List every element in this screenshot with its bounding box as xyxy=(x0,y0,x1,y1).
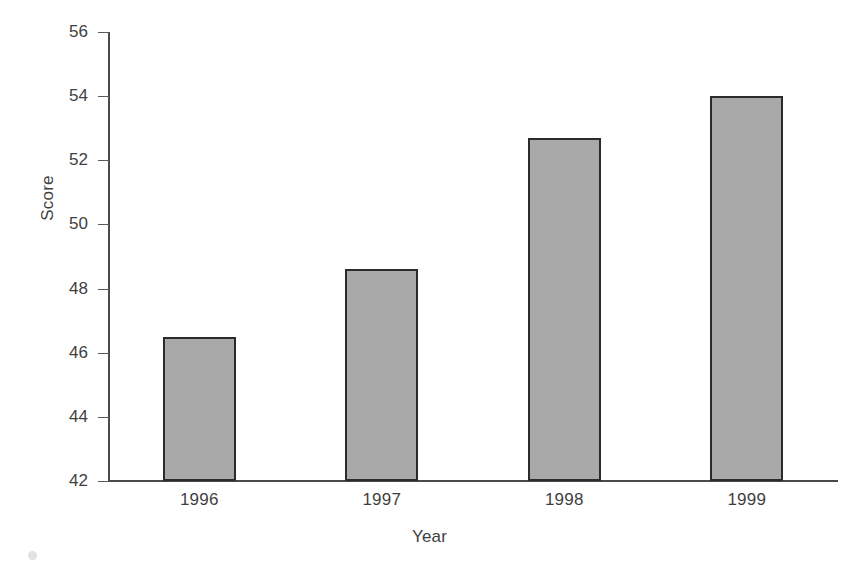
bar-1996 xyxy=(163,337,236,481)
bar-1998 xyxy=(528,138,601,481)
bar-1997 xyxy=(345,269,418,481)
x-tick-label: 1996 xyxy=(108,490,291,510)
y-tick-mark xyxy=(98,289,109,290)
y-tick-label: 56 xyxy=(42,22,88,42)
x-axis-title: Year xyxy=(0,527,859,547)
x-tick-label: 1997 xyxy=(291,490,474,510)
y-tick-label: 50 xyxy=(42,214,88,234)
y-tick-mark xyxy=(98,417,109,418)
y-tick-mark xyxy=(98,224,109,225)
y-tick-label: 42 xyxy=(42,471,88,491)
y-tick-mark xyxy=(98,481,109,482)
y-tick-mark xyxy=(98,96,109,97)
x-tick-label: 1998 xyxy=(473,490,656,510)
y-tick-label: 44 xyxy=(42,407,88,427)
bar-1999 xyxy=(710,96,783,481)
y-tick-label: 48 xyxy=(42,279,88,299)
y-tick-mark xyxy=(98,32,109,33)
bar-chart: Score 4244464850525456 1996199719981999 … xyxy=(0,0,859,579)
y-tick-label: 54 xyxy=(42,86,88,106)
y-axis-line xyxy=(108,32,110,482)
y-tick-label: 52 xyxy=(42,150,88,170)
y-tick-label: 46 xyxy=(42,343,88,363)
y-tick-mark xyxy=(98,160,109,161)
y-tick-mark xyxy=(98,353,109,354)
scan-artifact-speck xyxy=(28,551,37,560)
x-tick-label: 1999 xyxy=(656,490,839,510)
